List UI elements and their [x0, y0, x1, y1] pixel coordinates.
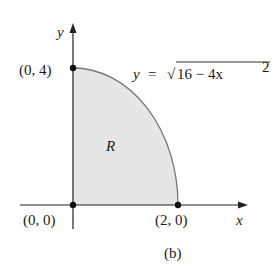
region-label: R [105, 138, 115, 154]
point-0-4 [70, 65, 76, 71]
point-label-0-4: (0, 4) [19, 62, 52, 79]
point-origin [70, 202, 76, 208]
equation-radical: √ [167, 66, 176, 82]
point-label-2-0: (2, 0) [155, 212, 188, 229]
equation-radicand: 16 − 4x [177, 66, 223, 82]
y-axis-label: y [55, 24, 64, 40]
x-axis-label: x [235, 212, 243, 228]
point-2-0 [175, 202, 181, 208]
equation-lhs: y [131, 66, 140, 82]
x-axis-arrow-icon [238, 202, 248, 209]
region-r [73, 68, 178, 205]
point-label-origin: (0, 0) [23, 212, 56, 229]
equation-equals: = [148, 66, 156, 82]
figure-caption: (b) [164, 245, 182, 262]
y-axis-arrow-icon [70, 23, 77, 33]
diagram-canvas: y x (0, 4) (0, 0) (2, 0) R y = √ 16 − 4x… [0, 0, 277, 280]
equation-exponent: 2 [262, 59, 270, 75]
